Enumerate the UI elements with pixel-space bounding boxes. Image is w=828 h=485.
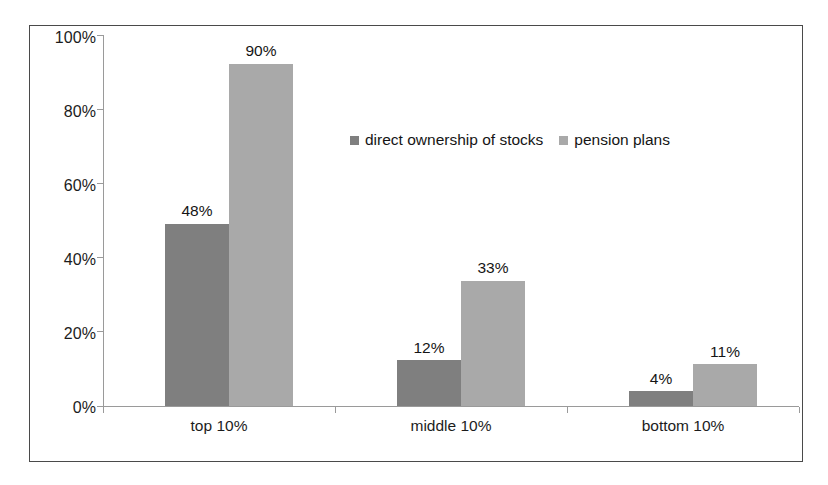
bar-middle-10-pension-plans[interactable] (461, 281, 525, 406)
x-axis-tick-mark-2 (567, 407, 568, 413)
x-axis-category-label-bottom-10: bottom 10% (623, 418, 743, 434)
bar-top-10-pension-plans[interactable] (229, 64, 293, 406)
bar-value-middle-10-direct-ownership: 12% (397, 340, 461, 356)
chart-legend: direct ownership of stocks pension plans (350, 132, 670, 148)
x-axis-tick-mark-3 (799, 407, 800, 413)
x-axis-tick-mark-1 (335, 407, 336, 413)
bar-top-10-direct-ownership[interactable] (165, 224, 229, 406)
legend-label-direct-ownership: direct ownership of stocks (365, 132, 543, 148)
x-axis-category-label-middle-10: middle 10% (391, 418, 511, 434)
bar-value-top-10-direct-ownership: 48% (165, 203, 229, 219)
bar-value-top-10-pension-plans: 90% (229, 43, 293, 59)
legend-label-pension-plans: pension plans (574, 132, 670, 148)
bar-middle-10-direct-ownership[interactable] (397, 360, 461, 406)
legend-item-direct-ownership-of-stocks[interactable]: direct ownership of stocks (350, 132, 543, 148)
legend-swatch-icon-direct-ownership (350, 136, 359, 145)
bar-bottom-10-direct-ownership[interactable] (629, 391, 693, 406)
bar-value-middle-10-pension-plans: 33% (461, 260, 525, 276)
x-axis-line (103, 406, 799, 407)
chart-frame: 100% 80% 60% 40% 20% 0% 48% (29, 25, 803, 462)
chart-screenshot: { "chart_data": { "type": "bar", "title"… (0, 0, 828, 485)
plot-area: 100% 80% 60% 40% 20% 0% 48% (30, 26, 802, 461)
x-axis-category-label-top-10: top 10% (159, 418, 279, 434)
legend-item-pension-plans[interactable]: pension plans (559, 132, 670, 148)
legend-swatch-icon-pension-plans (559, 136, 568, 145)
bar-value-bottom-10-direct-ownership: 4% (629, 371, 693, 387)
x-axis-tick-mark-0 (103, 407, 104, 413)
bar-value-bottom-10-pension-plans: 11% (693, 344, 757, 360)
bar-bottom-10-pension-plans[interactable] (693, 364, 757, 406)
